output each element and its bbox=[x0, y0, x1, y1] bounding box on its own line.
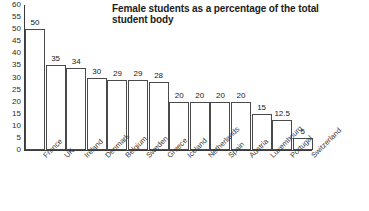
bar-value-label: 34 bbox=[61, 58, 91, 66]
bar bbox=[66, 68, 86, 150]
bar-value-label: 50 bbox=[20, 19, 50, 27]
y-axis-tick-label: 0 bbox=[5, 146, 21, 154]
y-axis-tick-label: 20 bbox=[5, 98, 21, 106]
bar-value-label: 20 bbox=[226, 92, 256, 100]
bar bbox=[25, 29, 45, 150]
y-axis-tick-label: 45 bbox=[5, 37, 21, 45]
y-axis-tick-label: 15 bbox=[5, 110, 21, 118]
y-axis-tick-label: 5 bbox=[5, 134, 21, 142]
bar-value-label: 12.5 bbox=[267, 110, 297, 118]
y-axis-tick-label: 10 bbox=[5, 122, 21, 130]
bar-chart: Female students as a percentage of the t… bbox=[0, 0, 369, 211]
y-axis-tick-label: 25 bbox=[5, 86, 21, 94]
y-axis-tick-label: 40 bbox=[5, 49, 21, 57]
y-axis-tick-label: 30 bbox=[5, 74, 21, 82]
y-axis-tick-label: 60 bbox=[5, 1, 21, 9]
y-axis-tick-label: 55 bbox=[5, 13, 21, 21]
y-axis-tick-label: 35 bbox=[5, 61, 21, 69]
y-axis-tick-label: 50 bbox=[5, 25, 21, 33]
bar-value-label: 28 bbox=[144, 72, 174, 80]
y-axis-tick-labels: 605550454035302520151050 bbox=[0, 0, 21, 211]
